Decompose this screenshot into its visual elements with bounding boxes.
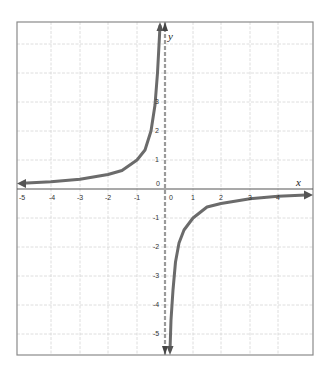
right-arrow-icon xyxy=(304,191,313,200)
svg-text:3: 3 xyxy=(248,194,252,201)
svg-text:-1: -1 xyxy=(134,194,140,201)
left-arrow-icon xyxy=(17,179,26,188)
rational-function-graph: -5 -4 -3 -2 -1 0 1 2 3 4 0 1 2 3 -1 -2 -… xyxy=(0,0,325,366)
svg-text:0: 0 xyxy=(169,194,173,201)
svg-text:-2: -2 xyxy=(105,194,111,201)
x-axis-label: x xyxy=(295,176,301,188)
top-arrow-icon xyxy=(157,22,164,31)
svg-text:1: 1 xyxy=(191,194,195,201)
svg-text:4: 4 xyxy=(276,194,280,201)
bottom-arrow-icon xyxy=(167,346,174,355)
svg-text:0: 0 xyxy=(156,180,160,187)
svg-text:-1: -1 xyxy=(153,214,159,221)
svg-text:1: 1 xyxy=(155,156,159,163)
svg-text:2: 2 xyxy=(155,127,159,134)
svg-text:-2: -2 xyxy=(153,243,159,250)
svg-text:2: 2 xyxy=(219,194,223,201)
svg-text:-4: -4 xyxy=(49,194,55,201)
svg-text:-5: -5 xyxy=(19,194,25,201)
svg-text:-3: -3 xyxy=(77,194,83,201)
y-tick-labels: 0 1 2 3 -1 -2 -3 -4 -5 xyxy=(153,98,160,337)
y-axis-label: y xyxy=(167,30,173,42)
svg-text:-5: -5 xyxy=(153,330,159,337)
svg-text:-3: -3 xyxy=(153,272,159,279)
svg-text:3: 3 xyxy=(155,98,159,105)
svg-text:-4: -4 xyxy=(153,301,159,308)
